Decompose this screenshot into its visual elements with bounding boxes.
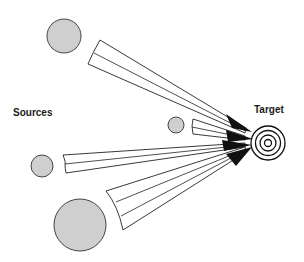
arrowhead-icon: [226, 114, 252, 132]
source-circle-top: [47, 19, 81, 53]
arrowhead-icon: [226, 130, 253, 142]
source-circle-large-bottom: [54, 199, 106, 251]
source-circle-left-middle: [31, 155, 53, 177]
target-label: Target: [254, 104, 284, 115]
target-bullseye-icon: [251, 126, 285, 160]
sources-target-diagram: [0, 0, 304, 262]
source-circle-small-middle: [168, 117, 184, 133]
sources-label: Sources: [13, 107, 52, 118]
